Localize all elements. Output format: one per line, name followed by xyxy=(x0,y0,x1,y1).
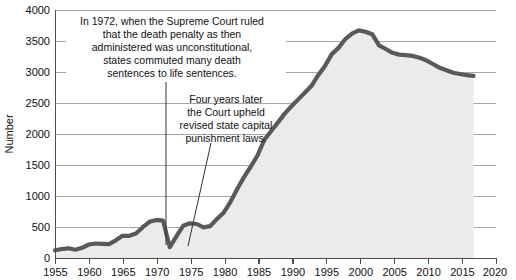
annotation-1976: Four years later the Court upheld revise… xyxy=(180,93,273,144)
y-tick-label-3500: 3500 xyxy=(26,35,50,47)
annotation-1976-line-1: Four years later xyxy=(189,93,263,105)
annotation-1972-line-5: sentences to life sentences. xyxy=(107,67,237,79)
y-tick-label-3000: 3000 xyxy=(26,66,50,78)
x-tick-label-1995: 1995 xyxy=(315,266,339,278)
x-tick-label-2010: 2010 xyxy=(416,266,440,278)
annotation-1976-line-3: revised state capital xyxy=(180,119,273,131)
x-tick-label-1970: 1970 xyxy=(145,266,169,278)
y-tick-label-2500: 2500 xyxy=(26,97,50,109)
y-tick-label-0: 0 xyxy=(44,252,50,264)
x-tick-label-1955: 1955 xyxy=(43,266,67,278)
y-tick-label-1500: 1500 xyxy=(26,159,50,171)
x-tick-label-2005: 2005 xyxy=(382,266,406,278)
annotation-1972: In 1972, when the Supreme Court ruled th… xyxy=(80,15,264,79)
y-tick-label-1000: 1000 xyxy=(26,190,50,202)
chart-canvas: 4000 3500 3000 2500 2000 1500 1000 500 0… xyxy=(0,0,516,280)
y-tick-label-2000: 2000 xyxy=(26,128,50,140)
y-axis-title: Number xyxy=(3,114,15,153)
x-tick-label-1965: 1965 xyxy=(111,266,135,278)
y-tick-label-500: 500 xyxy=(32,221,50,233)
x-tick-label-1980: 1980 xyxy=(213,266,237,278)
x-tick-label-1960: 1960 xyxy=(77,266,101,278)
annotation-1972-line-4: states commuted many death xyxy=(103,54,241,66)
x-tick-label-2000: 2000 xyxy=(349,266,373,278)
death-row-population-chart: 4000 3500 3000 2500 2000 1500 1000 500 0… xyxy=(0,0,516,280)
x-tick-label-1990: 1990 xyxy=(281,266,305,278)
annotation-1976-line-2: the Court upheld xyxy=(187,106,265,118)
x-tick-label-1985: 1985 xyxy=(247,266,271,278)
y-tick-label-4000: 4000 xyxy=(26,4,50,16)
annotation-1972-line-1: In 1972, when the Supreme Court ruled xyxy=(80,15,264,27)
x-tick-label-2020: 2020 xyxy=(483,266,507,278)
annotation-1972-line-3: administered was unconstitutional, xyxy=(92,41,253,53)
x-tick-label-1975: 1975 xyxy=(179,266,203,278)
annotation-1972-line-2: that the death penalty as then xyxy=(103,28,242,40)
x-tick-label-2015: 2015 xyxy=(450,266,474,278)
annotation-1976-line-4: punishment laws. xyxy=(185,132,266,144)
